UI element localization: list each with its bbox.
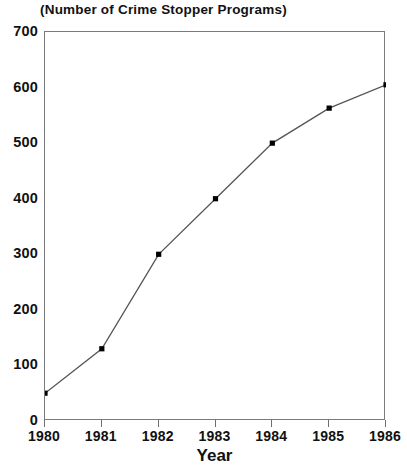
y-axis-tick-labels: 700 600 500 400 300 200 100 0 [0, 0, 38, 472]
x-tick-mark-1982 [158, 420, 159, 427]
y-tick-label-600: 600 [0, 79, 38, 95]
plot-area [44, 31, 385, 420]
x-tick-mark-1981 [101, 420, 102, 427]
y-tick-label-500: 500 [0, 134, 38, 150]
y-tick-label-300: 300 [0, 245, 38, 261]
data-point-1981 [99, 346, 104, 351]
data-point-markers [45, 82, 386, 396]
x-tick-mark-1984 [271, 420, 272, 427]
data-point-1983 [213, 196, 218, 201]
chart-figure: (Number of Crime Stopper Programs) 700 6… [0, 0, 407, 472]
x-tick-mark-1983 [215, 420, 216, 427]
data-point-1980 [45, 391, 48, 396]
data-point-1982 [156, 252, 161, 257]
x-tick-mark-1980 [44, 420, 45, 427]
x-axis-title: Year [44, 446, 385, 466]
data-point-1985 [327, 106, 332, 111]
y-tick-label-400: 400 [0, 190, 38, 206]
x-tick-mark-1985 [328, 420, 329, 427]
y-tick-label-0: 0 [0, 412, 38, 428]
data-point-1984 [270, 141, 275, 146]
x-tick-mark-1986 [385, 420, 386, 427]
x-tick-label-1986: 1986 [350, 428, 407, 444]
data-point-1986 [383, 82, 386, 87]
y-tick-label-700: 700 [0, 23, 38, 39]
y-tick-label-100: 100 [0, 356, 38, 372]
data-line-series [45, 32, 386, 421]
chart-title: (Number of Crime Stopper Programs) [40, 2, 287, 17]
y-tick-label-200: 200 [0, 301, 38, 317]
